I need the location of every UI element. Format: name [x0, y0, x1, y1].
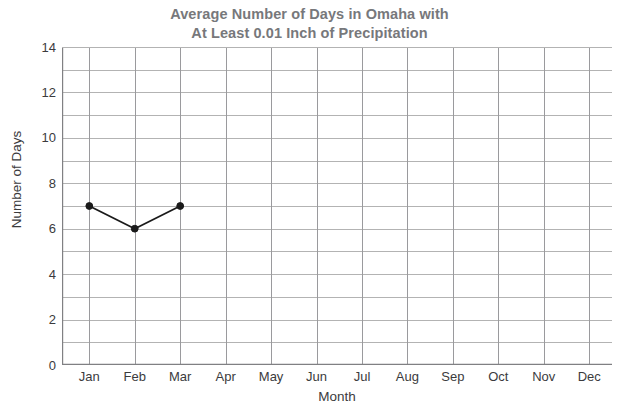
y-tick-label: 6 — [16, 222, 56, 235]
y-tick-label: 4 — [16, 268, 56, 281]
series-data-markers — [86, 203, 184, 233]
y-tick-label: 12 — [16, 86, 56, 99]
plot-area — [62, 47, 612, 365]
x-axis-title: Month — [62, 389, 612, 404]
y-tick-label: 8 — [16, 177, 56, 190]
y-tick-label: 0 — [16, 359, 56, 372]
y-axis-tick-labels: 02468101214 — [8, 47, 56, 365]
y-tick-label: 10 — [16, 131, 56, 144]
x-tick-label-dec: Dec — [559, 369, 619, 385]
chart-title: Average Number of Days in Omaha with At … — [0, 5, 619, 43]
precipitation-line-chart: Average Number of Days in Omaha with At … — [0, 0, 619, 410]
chart-title-line-2: At Least 0.01 Inch of Precipitation — [0, 24, 619, 43]
y-tick-label: 14 — [16, 41, 56, 54]
y-tick-label: 2 — [16, 313, 56, 326]
horizontal-minor-gridlines — [62, 71, 612, 343]
x-axis-tick-labels: JanFebMarAprMayJunJulAugSepOctNovDec — [62, 369, 612, 389]
chart-title-line-1: Average Number of Days in Omaha with — [0, 5, 619, 24]
plot-svg — [62, 47, 612, 365]
